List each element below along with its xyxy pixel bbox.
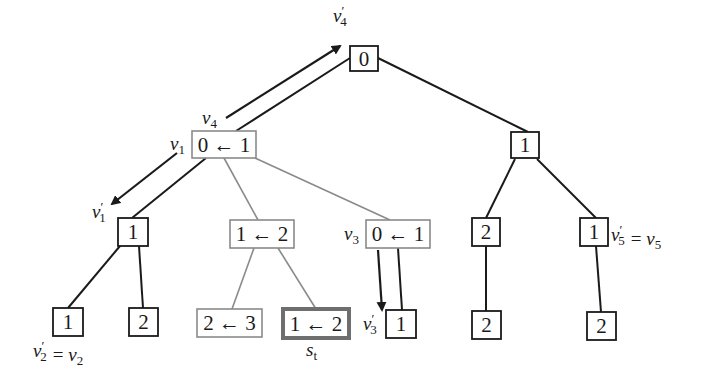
node-value: 1 (589, 220, 600, 244)
label-v1: v1 (170, 133, 185, 157)
node-value: 1 (520, 133, 531, 157)
edge-n_v1-n_12 (224, 158, 258, 220)
node-value: 1 ← 2 (290, 312, 343, 336)
edge-n_v1p-n_l2 (139, 246, 143, 308)
tree-node-n_l2: 2 (129, 308, 158, 336)
edge-root-n_v1 (236, 58, 350, 131)
node-value: 1 (396, 312, 407, 336)
arrow-v1-to-v1prime-icon (112, 153, 177, 204)
tree-node-n_v3: 0 ← 1 (366, 220, 430, 248)
tree-edges (68, 58, 601, 312)
edge-n_12-n_st (278, 248, 316, 309)
edge-n_v1p-n_v2 (68, 246, 120, 308)
edge-n_12-n_23 (232, 248, 254, 309)
edge-root-n_r1 (378, 58, 528, 132)
node-value: 2 ← 3 (203, 311, 256, 335)
tree-node-n_rr2: 2 (587, 312, 616, 340)
tree-node-n_v5: 1 (580, 218, 608, 246)
traversal-arrows (112, 46, 382, 310)
tree-node-n_rl2: 2 (472, 311, 501, 339)
tree-node-n_r1: 1 (511, 132, 539, 158)
label-v4-prime: v′4 (333, 3, 347, 29)
node-value: 2 (596, 314, 607, 338)
arrow-v3-to-v3prime-icon (378, 250, 382, 310)
label-v1-prime: v′1 (92, 199, 106, 225)
node-value: 1 (128, 220, 139, 244)
tree-node-root: 0 (350, 46, 378, 71)
tree-node-n_v1: 0 ← 1 (192, 131, 256, 158)
edge-n_v1-n_v1p (132, 158, 206, 218)
label-v3: v3 (344, 223, 359, 247)
node-value: 0 (359, 47, 370, 71)
label-st: st (306, 339, 317, 363)
label-v4: v4 (202, 107, 217, 131)
tree-node-n_v2: 1 (53, 308, 83, 336)
tree-node-n_v1p: 1 (118, 218, 148, 246)
node-value: 2 (481, 313, 492, 337)
node-value: 2 (481, 220, 492, 244)
edge-n_r1-n_v5 (537, 159, 596, 218)
node-value: 1 (63, 310, 74, 334)
edge-n_v5-n_rr2 (596, 246, 601, 312)
edge-n_v1-n_v3 (255, 158, 390, 220)
search-tree-diagram: 00 ← 1111 ← 20 ← 121122 ← 31 ← 2122 v′4v… (0, 0, 712, 380)
tree-node-n_12: 1 ← 2 (230, 220, 294, 248)
arrow-v4-to-v4prime-icon (226, 46, 340, 118)
node-value: 2 (138, 310, 149, 334)
node-value: 1 ← 2 (236, 222, 289, 246)
label-v3-prime: v′3 (363, 311, 377, 337)
tree-node-n_st: 1 ← 2 (283, 309, 349, 338)
tree-node-n_r2: 2 (472, 218, 500, 246)
tree-nodes: 00 ← 1111 ← 20 ← 121122 ← 31 ← 2122 (53, 46, 616, 340)
node-value: 0 ← 1 (372, 222, 425, 246)
label-v2-prime-eq: v′2= v2 (33, 338, 83, 368)
edge-n_v3-n_v3p (398, 248, 402, 310)
node-value: 0 ← 1 (198, 133, 251, 157)
label-v5-prime-eq: v′5= v5 (611, 222, 661, 252)
tree-node-n_v3p: 1 (386, 310, 416, 338)
edge-n_r1-n_r2 (486, 159, 515, 218)
tree-node-n_23: 2 ← 3 (197, 309, 262, 337)
